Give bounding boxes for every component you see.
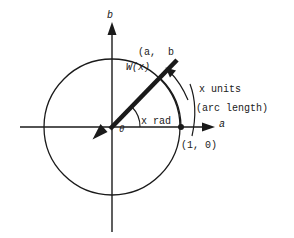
arc-length-bracket bbox=[190, 84, 195, 136]
wrapping-function-label: W(x) bbox=[126, 63, 150, 73]
b-axis-arrowhead bbox=[108, 22, 117, 35]
a-axis-label: a bbox=[219, 120, 225, 130]
arc-length-pointer bbox=[166, 68, 189, 101]
theta-angle-label: θ bbox=[119, 126, 124, 135]
terminal-point-coordinates-label: (a, b bbox=[138, 48, 174, 58]
b-axis-label: b bbox=[107, 11, 113, 21]
x-rad-label: x rad bbox=[141, 117, 171, 127]
arc-length-label: (arc length) bbox=[196, 104, 268, 114]
a-axis-arrowhead bbox=[202, 123, 215, 132]
unit-circle-diagram: b a (a, b W(x) x units (arc length) x ra… bbox=[0, 0, 294, 238]
unit-point-coordinates-label: (1, 0) bbox=[181, 141, 217, 151]
angle-arc bbox=[132, 107, 140, 127]
x-units-label: x units bbox=[199, 85, 241, 95]
